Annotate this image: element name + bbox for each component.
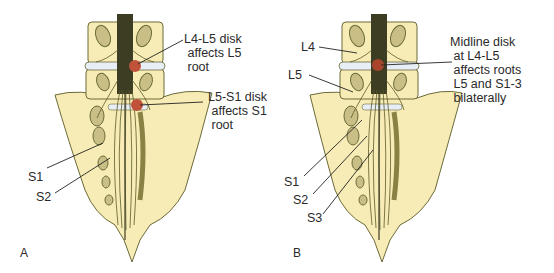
callout-midline-l4-l5: Midline disk at L4-L5 affects roots L5 a… xyxy=(450,35,522,105)
panel-label-b: B xyxy=(293,246,301,260)
root-label-s2: S2 xyxy=(36,190,51,204)
root-label-s3: S3 xyxy=(307,211,322,225)
panel-b: Midline disk at L4-L5 affects roots L5 a… xyxy=(277,0,554,273)
root-label-l5: L5 xyxy=(288,68,302,82)
root-label-s1: S1 xyxy=(284,175,299,189)
root-label-l4: L4 xyxy=(301,40,315,54)
herniation-l4-l5 xyxy=(129,60,141,72)
root-label-s1: S1 xyxy=(28,170,43,184)
callout-l5-s1: L5-S1 disk affects S1 root xyxy=(208,90,267,132)
panel-label-a: A xyxy=(20,246,28,260)
panel-a: L4-L5 disk affects L5 root L5-S1 disk af… xyxy=(0,0,277,273)
root-label-s2: S2 xyxy=(293,193,308,207)
callout-l4-l5: L4-L5 disk affects L5 root xyxy=(184,32,242,74)
